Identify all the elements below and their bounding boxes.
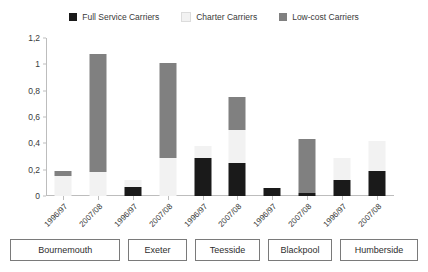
group-label-box: Humberside xyxy=(340,239,418,261)
stacked-bar[interactable] xyxy=(264,188,281,196)
bar-segment xyxy=(333,180,350,196)
x-axis-label-cell: 1996/97 xyxy=(255,200,290,234)
bar-segment xyxy=(229,163,246,196)
stacked-bar[interactable] xyxy=(124,180,141,196)
chart-container: Full Service Carriers Charter Carriers L… xyxy=(0,0,428,272)
x-axis-label: 2007/08 xyxy=(147,202,174,229)
x-axis-label: 2007/08 xyxy=(217,202,244,229)
legend-label: Full Service Carriers xyxy=(82,13,159,22)
bar-segment xyxy=(90,172,107,196)
bar-segment xyxy=(194,146,211,158)
bar-slot xyxy=(185,38,220,196)
legend-swatch-icon xyxy=(279,13,287,21)
x-axis-label-cell: 2007/08 xyxy=(220,200,255,234)
plot-area: 00,20,40,60,811,2 xyxy=(46,38,394,196)
bar-segment xyxy=(264,188,281,196)
x-axis-label-cell: 2007/08 xyxy=(359,200,394,234)
bar-segment xyxy=(55,176,72,196)
stacked-bar[interactable] xyxy=(298,139,315,196)
stacked-bar[interactable] xyxy=(159,63,176,196)
x-axis-label-cell: 1996/97 xyxy=(324,200,359,234)
group-label-box: Teesside xyxy=(195,239,261,261)
bar-segment xyxy=(229,130,246,163)
x-axis-label-cell: 1996/97 xyxy=(185,200,220,234)
bar-slot xyxy=(255,38,290,196)
stacked-bar[interactable] xyxy=(333,158,350,196)
bar-slot xyxy=(359,38,394,196)
legend-swatch-icon xyxy=(69,13,77,21)
x-axis-label: 1996/97 xyxy=(321,202,348,229)
bar-segment xyxy=(368,141,385,171)
group-label-box: Blackpool xyxy=(268,239,332,261)
bar-slot xyxy=(290,38,325,196)
bar-segment xyxy=(159,158,176,196)
legend-item-charter: Charter Carriers xyxy=(181,12,257,22)
bar-series-group xyxy=(46,38,394,196)
bar-segment xyxy=(333,158,350,180)
bar-slot xyxy=(150,38,185,196)
stacked-bar[interactable] xyxy=(229,97,246,196)
x-axis-label: 1996/97 xyxy=(43,202,70,229)
legend-item-full-service: Full Service Carriers xyxy=(69,13,159,22)
stacked-bar[interactable] xyxy=(55,171,72,196)
bar-segment xyxy=(90,54,107,173)
bar-slot xyxy=(324,38,359,196)
group-label-row: BournemouthExeterTeessideBlackpoolHumber… xyxy=(10,236,418,264)
chart-legend: Full Service Carriers Charter Carriers L… xyxy=(0,12,428,22)
x-axis-label-cell: 1996/97 xyxy=(46,200,81,234)
legend-item-low-cost: Low-cost Carriers xyxy=(279,13,359,22)
bar-slot xyxy=(220,38,255,196)
legend-label: Charter Carriers xyxy=(196,13,257,22)
bar-segment xyxy=(124,180,141,187)
stacked-bar[interactable] xyxy=(194,146,211,196)
bar-segment xyxy=(159,63,176,158)
bar-slot xyxy=(46,38,81,196)
x-axis-label: 1996/97 xyxy=(252,202,279,229)
group-label-box: Bournemouth xyxy=(10,239,120,261)
bar-segment xyxy=(298,139,315,193)
stacked-bar[interactable] xyxy=(90,54,107,196)
stacked-bar[interactable] xyxy=(368,141,385,196)
group-label-box: Exeter xyxy=(128,239,186,261)
x-axis-label-cell: 2007/08 xyxy=(81,200,116,234)
x-axis-labels: 1996/972007/081996/972007/081996/972007/… xyxy=(46,200,394,234)
bar-segment xyxy=(229,97,246,130)
legend-swatch-icon xyxy=(181,12,191,22)
bar-segment xyxy=(124,187,141,196)
x-axis-label-cell: 1996/97 xyxy=(116,200,151,234)
bar-segment xyxy=(194,158,211,196)
x-axis-label: 1996/97 xyxy=(113,202,140,229)
bar-segment xyxy=(368,171,385,196)
legend-label: Low-cost Carriers xyxy=(292,13,359,22)
x-axis-label-cell: 2007/08 xyxy=(150,200,185,234)
x-axis-label-cell: 2007/08 xyxy=(290,200,325,234)
x-axis-label: 2007/08 xyxy=(78,202,105,229)
x-axis-label: 2007/08 xyxy=(356,202,383,229)
x-axis-label: 1996/97 xyxy=(182,202,209,229)
x-axis-label: 2007/08 xyxy=(287,202,314,229)
bar-slot xyxy=(81,38,116,196)
bar-slot xyxy=(116,38,151,196)
